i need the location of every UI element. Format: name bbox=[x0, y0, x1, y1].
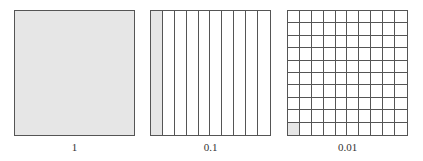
hundredth-cell bbox=[312, 36, 324, 48]
hundredth-cell bbox=[312, 123, 324, 135]
hundredth-cell bbox=[288, 23, 300, 35]
hundredths-square bbox=[287, 10, 408, 136]
hundredth-cell bbox=[324, 98, 336, 110]
hundredth-cell bbox=[347, 123, 359, 135]
hundredth-cell bbox=[336, 85, 348, 97]
hundredth-cell bbox=[395, 11, 407, 23]
hundredth-cell bbox=[336, 110, 348, 122]
hundredth-cell bbox=[395, 98, 407, 110]
hundredth-cell bbox=[300, 98, 312, 110]
hundredth-cell bbox=[288, 85, 300, 97]
hundredth-cell bbox=[347, 85, 359, 97]
hundredth-cell bbox=[300, 36, 312, 48]
hundredth-cell bbox=[359, 98, 371, 110]
hundredth-cell bbox=[312, 110, 324, 122]
hundredth-cell bbox=[395, 85, 407, 97]
hundredth-cell bbox=[371, 123, 383, 135]
hundredth-cell bbox=[336, 98, 348, 110]
hundredth-cell bbox=[300, 85, 312, 97]
hundredth-cell bbox=[383, 61, 395, 73]
hundredth-cell bbox=[300, 110, 312, 122]
hundredth-cell bbox=[324, 61, 336, 73]
hundredth-cell bbox=[395, 110, 407, 122]
hundredth-cell bbox=[347, 11, 359, 23]
hundredth-cell bbox=[288, 98, 300, 110]
hundredth-cell bbox=[371, 110, 383, 122]
hundredth-cell bbox=[359, 23, 371, 35]
tenth-cell bbox=[199, 11, 211, 135]
hundredth-cell bbox=[359, 61, 371, 73]
tenth-cell bbox=[246, 11, 258, 135]
hundredth-cell bbox=[371, 73, 383, 85]
hundredth-cell bbox=[395, 48, 407, 60]
hundredth-cell bbox=[336, 123, 348, 135]
hundredth-cell bbox=[288, 110, 300, 122]
tenth-cell bbox=[187, 11, 199, 135]
hundredth-cell bbox=[300, 48, 312, 60]
hundredth-cell bbox=[288, 61, 300, 73]
hundredth-cell bbox=[324, 123, 336, 135]
hundredth-cell bbox=[347, 98, 359, 110]
tenth-cell bbox=[163, 11, 175, 135]
hundredth-cell bbox=[383, 23, 395, 35]
whole-square bbox=[14, 10, 135, 136]
hundredth-cell bbox=[371, 11, 383, 23]
hundredth-cell bbox=[371, 85, 383, 97]
hundredth-cell bbox=[371, 23, 383, 35]
hundredth-cell bbox=[324, 11, 336, 23]
label-one: 1 bbox=[14, 141, 135, 153]
hundredth-cell bbox=[371, 98, 383, 110]
hundredth-cell bbox=[300, 123, 312, 135]
hundredth-cell bbox=[383, 110, 395, 122]
hundredth-cell bbox=[347, 36, 359, 48]
hundredth-cell bbox=[371, 36, 383, 48]
tenth-cell bbox=[210, 11, 222, 135]
hundredth-cell bbox=[383, 36, 395, 48]
hundredth-cell bbox=[324, 23, 336, 35]
hundredth-cell bbox=[324, 73, 336, 85]
hundredth-cell bbox=[312, 73, 324, 85]
hundredth-cell bbox=[359, 85, 371, 97]
hundredth-cell bbox=[347, 23, 359, 35]
hundredth-cell bbox=[324, 85, 336, 97]
hundredth-cell bbox=[300, 61, 312, 73]
tenth-cell bbox=[258, 11, 270, 135]
hundredth-cell bbox=[371, 61, 383, 73]
hundredth-cell bbox=[312, 98, 324, 110]
hundredth-cell bbox=[359, 11, 371, 23]
tenth-cell bbox=[234, 11, 246, 135]
hundredth-cell bbox=[288, 123, 300, 135]
hundredth-cell bbox=[336, 48, 348, 60]
hundredth-cell bbox=[300, 11, 312, 23]
hundredth-cell bbox=[336, 23, 348, 35]
hundredth-cell bbox=[324, 110, 336, 122]
hundredth-cell bbox=[288, 36, 300, 48]
hundredth-cell bbox=[312, 85, 324, 97]
hundredth-cell bbox=[300, 23, 312, 35]
hundredth-cell bbox=[324, 36, 336, 48]
hundredth-cell bbox=[395, 36, 407, 48]
hundredth-cell bbox=[359, 48, 371, 60]
hundredth-cell bbox=[336, 36, 348, 48]
hundredth-cell bbox=[383, 85, 395, 97]
hundredth-cell bbox=[336, 11, 348, 23]
hundredths-grid bbox=[288, 11, 407, 135]
hundredth-cell bbox=[359, 123, 371, 135]
hundredth-cell bbox=[324, 48, 336, 60]
hundredth-cell bbox=[395, 123, 407, 135]
hundredth-cell bbox=[288, 48, 300, 60]
tenth-cell bbox=[151, 11, 163, 135]
hundredth-cell bbox=[383, 11, 395, 23]
hundredth-cell bbox=[383, 98, 395, 110]
hundredth-cell bbox=[312, 61, 324, 73]
tenths-square bbox=[150, 10, 271, 136]
hundredth-cell bbox=[347, 73, 359, 85]
hundredth-cell bbox=[359, 73, 371, 85]
hundredth-cell bbox=[395, 73, 407, 85]
label-tenth: 0.1 bbox=[150, 141, 271, 153]
hundredth-cell bbox=[347, 48, 359, 60]
hundredth-cell bbox=[336, 61, 348, 73]
hundredth-cell bbox=[383, 48, 395, 60]
tenth-cell bbox=[175, 11, 187, 135]
hundredth-cell bbox=[395, 23, 407, 35]
